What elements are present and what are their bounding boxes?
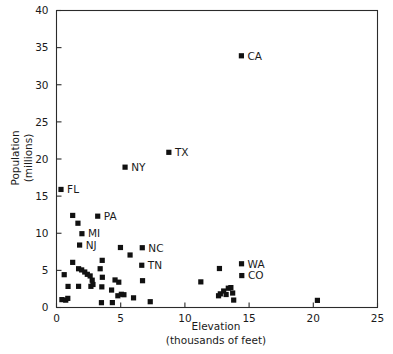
data-marker xyxy=(148,299,153,304)
point-label-NC: NC xyxy=(148,242,163,254)
point-label-NY: NY xyxy=(131,161,146,173)
data-marker-NC xyxy=(140,245,145,250)
data-marker xyxy=(76,284,81,289)
data-marker-WA xyxy=(239,261,244,266)
data-marker xyxy=(99,284,104,289)
data-marker xyxy=(100,258,105,263)
y-tick-label-40: 40 xyxy=(35,4,48,16)
point-label-CO: CO xyxy=(248,269,264,281)
y-tick-label-5: 5 xyxy=(42,264,49,276)
y-tick-label-30: 30 xyxy=(35,79,48,91)
scatter-plot-figure: 0510152025 0510152025303540 CATXNYFLPAMI… xyxy=(0,0,393,354)
data-marker xyxy=(224,292,229,297)
point-label-WA: WA xyxy=(248,258,266,270)
y-axis-ticks xyxy=(57,11,62,308)
data-marker-PA xyxy=(95,214,100,219)
data-marker xyxy=(70,260,75,265)
data-marker xyxy=(230,290,235,295)
y-axis-subtitle: (millions) xyxy=(22,134,34,183)
y-tick-label-25: 25 xyxy=(35,116,48,128)
data-marker xyxy=(90,282,95,287)
x-tick-label-5: 5 xyxy=(117,312,124,324)
x-tick-label-20: 20 xyxy=(307,312,320,324)
y-axis-tick-labels: 0510152025303540 xyxy=(35,4,48,313)
point-label-MI: MI xyxy=(88,227,100,239)
data-marker xyxy=(315,298,320,303)
data-marker-TX xyxy=(166,150,171,155)
data-marker-FL xyxy=(58,187,63,192)
y-tick-label-10: 10 xyxy=(35,227,48,239)
y-axis-title: Population xyxy=(9,130,21,185)
data-marker xyxy=(65,296,70,301)
point-label-FL: FL xyxy=(67,183,79,195)
data-marker xyxy=(127,252,132,257)
y-tick-label-20: 20 xyxy=(35,153,48,165)
chart-canvas: 0510152025 0510152025303540 CATXNYFLPAMI… xyxy=(0,0,393,354)
x-axis-title: Elevation xyxy=(192,320,241,332)
data-marker xyxy=(121,292,126,297)
y-tick-label-0: 0 xyxy=(42,301,49,313)
data-marker xyxy=(115,293,120,298)
data-marker xyxy=(70,213,75,218)
y-tick-label-15: 15 xyxy=(35,190,48,202)
data-marker xyxy=(217,266,222,271)
data-marker-NY xyxy=(122,165,127,170)
data-marker xyxy=(131,295,136,300)
x-tick-label-0: 0 xyxy=(53,312,60,324)
data-marker-MI xyxy=(79,231,84,236)
x-axis-subtitle: (thousands of feet) xyxy=(166,334,266,346)
data-marker xyxy=(110,300,115,305)
point-label-TN: TN xyxy=(147,259,162,271)
data-marker xyxy=(99,300,104,305)
x-tick-label-25: 25 xyxy=(371,312,384,324)
data-marker xyxy=(75,221,80,226)
data-marker xyxy=(98,266,103,271)
data-marker-CO xyxy=(239,273,244,278)
data-point-labels: CATXNYFLPAMINJNCTNWACO xyxy=(67,50,265,282)
data-marker xyxy=(228,285,233,290)
data-marker-TN xyxy=(139,263,144,268)
point-label-NJ: NJ xyxy=(86,239,97,251)
x-tick-label-10: 10 xyxy=(178,312,191,324)
data-marker xyxy=(140,278,145,283)
x-axis-ticks xyxy=(57,303,378,308)
data-marker xyxy=(109,287,114,292)
data-marker-CA xyxy=(239,53,244,58)
point-label-TX: TX xyxy=(174,146,189,158)
data-marker xyxy=(118,245,123,250)
data-marker-NJ xyxy=(77,242,82,247)
point-label-PA: PA xyxy=(104,210,118,222)
data-marker xyxy=(62,272,67,277)
data-marker xyxy=(116,280,121,285)
x-tick-label-15: 15 xyxy=(242,312,255,324)
data-marker xyxy=(231,297,236,302)
data-marker xyxy=(100,275,105,280)
y-tick-label-35: 35 xyxy=(35,41,48,53)
data-markers xyxy=(58,53,320,305)
point-label-CA: CA xyxy=(247,50,262,62)
data-marker xyxy=(65,284,70,289)
data-marker xyxy=(198,279,203,284)
